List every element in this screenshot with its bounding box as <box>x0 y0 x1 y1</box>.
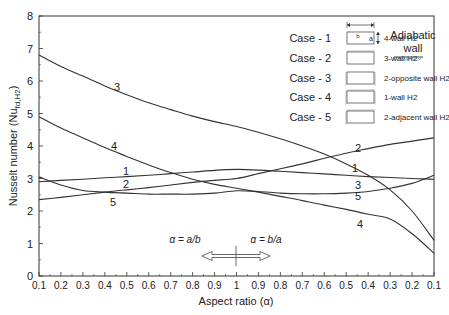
curve-label-2: 2 <box>355 142 361 154</box>
legend-duct-icon-case-5 <box>345 109 375 125</box>
x-tick-label: 0.5 <box>339 280 353 291</box>
x-tick-label: 0.3 <box>383 280 397 291</box>
adiabatic-label-line2: wall <box>403 42 423 54</box>
dimension-a-label: a <box>369 35 373 42</box>
y-tick-label: 1 <box>27 238 33 250</box>
x-tick-label: 0.7 <box>164 280 178 291</box>
y-tick-label: 8 <box>27 10 33 22</box>
x-tick-label: 0.9 <box>251 280 265 291</box>
legend-case-label: Case - 2 <box>289 52 331 64</box>
y-axis-label: Nusselt number (Nufd,H2) <box>7 86 22 207</box>
curve-case-4 <box>39 117 434 254</box>
ratio-left-annotation: α = a/b <box>169 234 200 245</box>
legend-case-description: 1-wall H2 <box>384 93 418 102</box>
curve-label-1: 1 <box>352 162 358 174</box>
adiabatic-label-line1: Adiabatic <box>390 29 436 41</box>
ratio-right-annotation: α = b/a <box>250 234 281 245</box>
plot-frame <box>39 16 434 276</box>
x-tick-label: 0.8 <box>273 280 287 291</box>
x-tick-label: 0.6 <box>317 280 331 291</box>
x-tick-label: 0.4 <box>361 280 375 291</box>
legend-case-label: Case - 4 <box>289 91 331 103</box>
curve-label-2: 2 <box>123 178 129 190</box>
curve-label-5: 5 <box>110 196 116 208</box>
y-tick-label: 7 <box>27 43 33 55</box>
curve-labels: 1122334455 <box>110 81 363 230</box>
y-tick-label: 0 <box>27 270 33 282</box>
chart-canvas: 0.10.20.30.40.50.60.70.80.910.90.80.70.6… <box>0 0 449 315</box>
x-tick-label: 0.8 <box>186 280 200 291</box>
y-tick-label: 5 <box>27 108 33 120</box>
x-tick-label: 0.9 <box>208 280 222 291</box>
legend-duct-icon-case-1: ba <box>347 22 380 44</box>
curve-label-1: 1 <box>123 165 129 177</box>
x-tick-label: 0.1 <box>427 280 441 291</box>
axes: 0.10.20.30.40.50.60.70.80.910.90.80.70.6… <box>27 10 442 291</box>
y-tick-label: 4 <box>27 140 33 152</box>
curve-label-4: 4 <box>357 218 363 230</box>
legend-duct-icon-case-3 <box>345 72 376 86</box>
legend-case-label: Case - 3 <box>289 72 331 84</box>
legend-duct-icon-case-4 <box>345 89 376 105</box>
x-tick-label: 0.5 <box>120 280 134 291</box>
x-axis-label: Aspect ratio (α) <box>199 295 274 307</box>
x-tick-label: 0.2 <box>54 280 68 291</box>
legend-case-description: 2-adjacent wall H2 <box>384 113 449 122</box>
x-tick-label: 0.1 <box>32 280 46 291</box>
curve-label-3: 3 <box>114 81 120 93</box>
y-tick-label: 2 <box>27 205 33 217</box>
y-tick-label: 6 <box>27 75 33 87</box>
x-tick-label: 0.2 <box>405 280 419 291</box>
x-tick-label: 0.7 <box>295 280 309 291</box>
curve-label-4: 4 <box>111 140 117 152</box>
curve-label-5: 5 <box>355 190 361 202</box>
legend-case-label: Case - 1 <box>289 32 331 44</box>
legend-case-description: 2-opposite wall H2 <box>384 74 449 83</box>
x-tick-label: 0.3 <box>76 280 90 291</box>
x-tick-label: 0.6 <box>142 280 156 291</box>
y-tick-label: 3 <box>27 173 33 185</box>
x-tick-label: 0.4 <box>98 280 112 291</box>
legend-duct-icon-case-2 <box>347 50 375 64</box>
legend-case-label: Case - 5 <box>289 111 331 123</box>
x-tick-label: 1 <box>234 280 240 291</box>
